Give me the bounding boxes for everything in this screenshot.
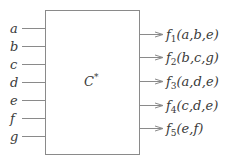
input-label-c: c xyxy=(10,57,18,72)
component-name: C xyxy=(84,74,94,89)
input-label-a: a xyxy=(10,21,18,36)
output-label-4: f4(c,d,e) xyxy=(165,98,218,115)
input-group: abcdefg xyxy=(9,21,46,144)
input-label-g: g xyxy=(10,129,18,144)
function-args: (a,b,e) xyxy=(177,27,219,42)
output-label-2: f2(b,c,g) xyxy=(165,50,219,67)
output-label-5: f5(e,f) xyxy=(165,121,203,138)
input-label-d: d xyxy=(10,75,18,90)
output-group: f1(a,b,e)f2(b,c,g)f3(a,d,e)f4(c,d,e)f5(e… xyxy=(140,27,219,138)
input-label-e: e xyxy=(10,93,18,108)
function-args: (e,f) xyxy=(177,121,204,136)
function-args: (c,d,e) xyxy=(177,98,219,113)
component-superscript: * xyxy=(94,72,99,82)
output-label-3: f3(a,d,e) xyxy=(165,74,219,91)
function-args: (b,c,g) xyxy=(177,50,219,65)
output-label-1: f1(a,b,e) xyxy=(165,27,219,44)
function-args: (a,d,e) xyxy=(177,74,219,89)
circuit-diagram: C* abcdefg f1(a,b,e)f2(b,c,g)f3(a,d,e)f4… xyxy=(0,0,225,163)
input-label-f: f xyxy=(9,111,17,126)
input-label-b: b xyxy=(10,39,18,54)
